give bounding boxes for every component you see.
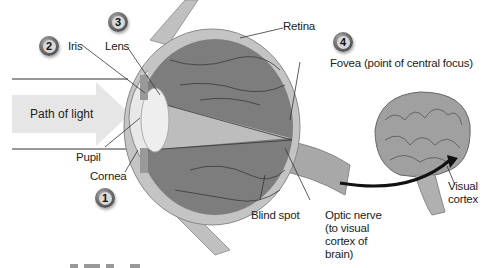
label-fovea: Fovea (point of central focus) <box>330 57 473 70</box>
label-lens: Lens <box>105 40 129 53</box>
badge-1: 1 <box>95 188 115 208</box>
label-pupil: Pupil <box>76 151 101 164</box>
visual-cortex-line-2: cortex <box>448 193 478 206</box>
label-retina: Retina <box>283 20 315 33</box>
label-blind-spot: Blind spot <box>251 209 300 222</box>
optic-nerve-line-2: (to visual <box>325 222 382 235</box>
path-of-light-label: Path of light <box>30 107 93 121</box>
optic-nerve-line-1: Optic nerve <box>325 209 382 222</box>
optic-nerve-line-4: brain) <box>325 248 382 261</box>
cut-off-caption <box>70 264 150 268</box>
label-iris: Iris <box>68 40 83 53</box>
badge-4: 4 <box>333 32 353 52</box>
optic-nerve-line-3: cortex of <box>325 235 382 248</box>
brainstem-shape <box>415 175 445 215</box>
label-cornea: Cornea <box>90 170 127 183</box>
label-visual-cortex: Visual cortex <box>448 180 478 206</box>
label-optic-nerve: Optic nerve (to visual cortex of brain) <box>325 209 382 261</box>
brain-shape <box>375 92 470 177</box>
visual-cortex-line-1: Visual <box>448 180 478 193</box>
badge-3: 3 <box>108 12 128 32</box>
badge-2: 2 <box>39 36 59 56</box>
